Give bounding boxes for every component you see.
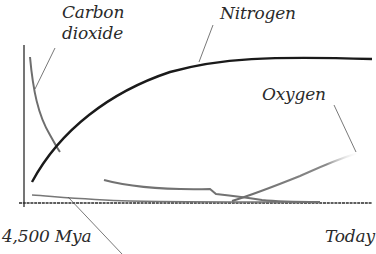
label-dioxide: dioxide — [62, 23, 123, 43]
label-start-time: 4,500 Mya — [2, 226, 91, 246]
leader-carbon-dioxide — [35, 48, 55, 89]
leader-oxygen — [334, 105, 356, 152]
label-today: Today — [325, 226, 375, 246]
label-nitrogen: Nitrogen — [220, 3, 296, 23]
series-carbon-dioxide — [30, 57, 60, 152]
leader-nitrogen — [199, 25, 213, 62]
atmosphere-composition-diagram — [0, 0, 376, 254]
label-oxygen: Oxygen — [262, 84, 326, 104]
label-carbon: Carbon — [62, 2, 124, 22]
series-nitrogen — [32, 58, 372, 182]
series-oxygen — [232, 153, 358, 201]
series-other-gas — [104, 180, 320, 202]
